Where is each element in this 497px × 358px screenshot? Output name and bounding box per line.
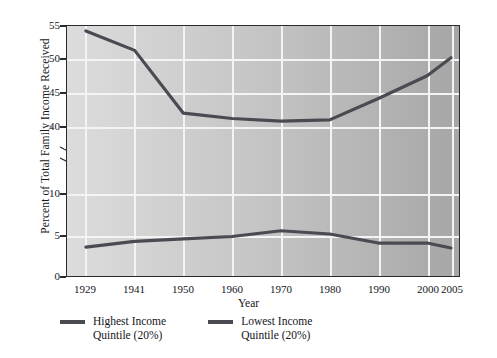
- chart-figure: Percent of Total Family Income Received …: [0, 0, 497, 358]
- x-tick-label: 1980: [302, 283, 358, 295]
- x-axis-title: Year: [0, 297, 497, 309]
- y-tick-label-wrap: 50: [24, 52, 60, 66]
- line-highest-income-quintile: [86, 31, 451, 121]
- x-tick-label: 1929: [57, 283, 113, 295]
- x-tick-label: 1950: [155, 283, 211, 295]
- plot-area: [66, 25, 460, 277]
- y-axis-title: Percent of Total Family Income Received: [39, 6, 51, 266]
- line-lowest-income-quintile: [86, 231, 451, 248]
- y-tick-label-wrap: 5: [24, 229, 60, 243]
- data-lines: [67, 26, 459, 276]
- legend-label: Lowest Income Quintile (20%): [241, 315, 312, 342]
- x-tick-label: 2005: [424, 283, 480, 295]
- x-tick-label: 1960: [204, 283, 260, 295]
- y-tick-label-wrap: 45: [24, 86, 60, 100]
- y-tick-label: 10: [30, 187, 60, 199]
- y-tick-label-wrap: 10: [24, 187, 60, 201]
- y-tick-label: 0: [30, 270, 60, 282]
- x-tick-label: 1990: [351, 283, 407, 295]
- legend-swatch-icon: [208, 320, 233, 324]
- legend-item: Highest Income Quintile (20%): [60, 315, 166, 342]
- y-tick-label-wrap: 55: [24, 19, 60, 33]
- y-tick-label-wrap: 40: [24, 120, 60, 134]
- legend-label: Highest Income Quintile (20%): [93, 315, 166, 342]
- y-tick-label: 55: [30, 19, 60, 31]
- x-tick-label: 1941: [106, 283, 162, 295]
- y-tick-label: 50: [30, 52, 60, 64]
- y-tick-label: 40: [30, 120, 60, 132]
- chart-legend: Highest Income Quintile (20%)Lowest Inco…: [60, 315, 390, 342]
- legend-swatch-icon: [60, 320, 85, 324]
- legend-item: Lowest Income Quintile (20%): [208, 315, 312, 342]
- y-tick-label-wrap: 0: [24, 270, 60, 284]
- y-tick-label: 45: [30, 86, 60, 98]
- x-tick-label: 1970: [253, 283, 309, 295]
- y-tick-label: 5: [30, 229, 60, 241]
